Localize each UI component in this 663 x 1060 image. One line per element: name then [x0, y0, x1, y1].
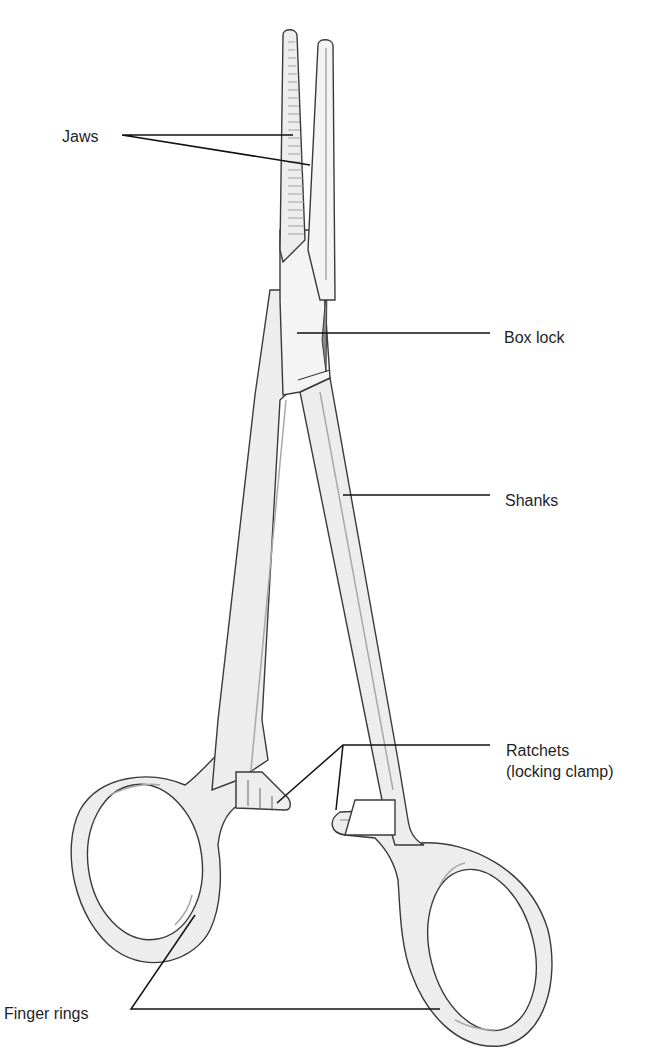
right-jaw: [308, 40, 335, 300]
label-box-lock: Box lock: [504, 328, 564, 347]
ratchets: [236, 772, 290, 810]
label-ratchets: Ratchets: [506, 741, 569, 760]
hemostat-diagram: Jaws Box lock Shanks Ratchets (locking c…: [0, 0, 663, 1060]
label-locking-clamp: (locking clamp): [506, 762, 614, 781]
label-finger-rings: Finger rings: [4, 1004, 88, 1023]
hemostat-illustration: [0, 0, 663, 1060]
right-shank: [300, 378, 424, 845]
left-jaw: [280, 30, 305, 262]
label-shanks: Shanks: [505, 491, 558, 510]
label-jaws: Jaws: [62, 127, 98, 146]
